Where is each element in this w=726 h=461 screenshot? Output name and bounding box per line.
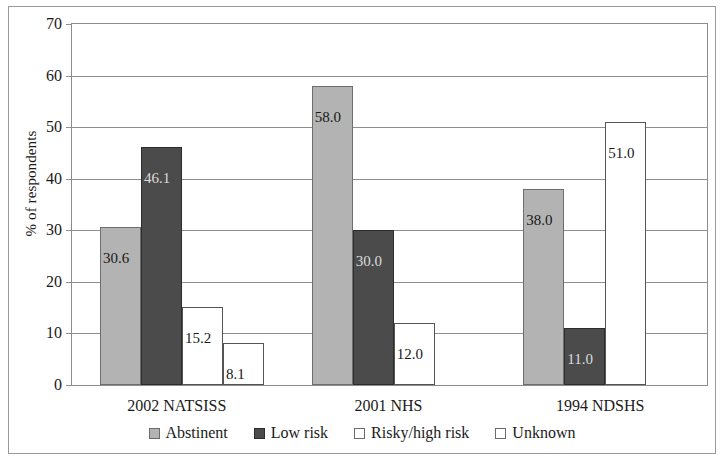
bar-value-label: 8.1 [226,367,245,382]
bar-value-label: 12.0 [397,347,423,362]
bar [605,122,646,385]
y-axis-tick-mark [66,179,72,180]
plot-area: 706050403020100 30.646.115.28.158.030.01… [71,23,708,386]
y-axis-tick-label: 10 [46,324,62,342]
bar [182,307,223,385]
legend-swatch-icon [254,428,265,439]
x-axis-category-label: 2001 NHS [354,397,422,415]
bar-value-label: 58.0 [315,110,341,125]
x-axis-category-label: 2002 NATSISS [127,397,226,415]
x-axis-category-label: 1994 NDSHS [556,397,644,415]
chart-figure: % of respondents 706050403020100 30.646.… [8,6,716,454]
legend-label: Risky/high risk [371,424,469,442]
legend-label: Unknown [512,424,575,442]
legend-item[interactable]: Abstinent [149,424,228,442]
y-axis-tick-label: 0 [54,376,62,394]
bar-value-label: 30.6 [103,251,129,266]
y-axis-tick-label: 20 [46,273,62,291]
y-axis-tick-label: 40 [46,170,62,188]
y-axis-tick-mark [66,127,72,128]
bar-value-label: 38.0 [526,213,552,228]
y-axis-tick-label: 50 [46,118,62,136]
legend-swatch-icon [495,428,506,439]
bar [312,86,353,385]
legend-item[interactable]: Low risk [254,424,328,442]
legend-label: Low risk [271,424,328,442]
gridline [72,76,707,77]
y-axis-tick-mark [66,333,72,334]
y-axis-title: % of respondents [23,84,40,284]
y-axis-tick-label: 70 [46,15,62,33]
legend-item[interactable]: Unknown [495,424,575,442]
bar-value-label: 11.0 [567,352,593,367]
legend-swatch-icon [354,428,365,439]
chart-legend: AbstinentLow riskRisky/high riskUnknown [9,424,715,442]
y-axis-tick-label: 60 [46,67,62,85]
bar-value-label: 30.0 [356,254,382,269]
y-axis-tick-mark [66,385,72,386]
bar-value-label: 46.1 [144,171,170,186]
y-axis-tick-label: 30 [46,221,62,239]
y-axis-tick-mark [66,282,72,283]
y-axis-tick-mark [66,76,72,77]
legend-label: Abstinent [166,424,228,442]
y-axis-tick-mark [66,24,72,25]
bar-value-label: 51.0 [608,146,634,161]
bar-value-label: 15.2 [185,331,211,346]
y-axis-tick-mark [66,230,72,231]
legend-swatch-icon [149,428,160,439]
legend-item[interactable]: Risky/high risk [354,424,469,442]
